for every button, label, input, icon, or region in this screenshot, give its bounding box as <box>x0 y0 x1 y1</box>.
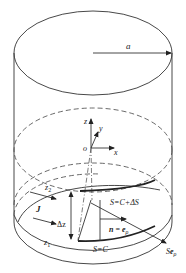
x-axis-label: x <box>113 148 118 157</box>
current-arrow-2 <box>33 218 56 224</box>
y-axis-label: y <box>98 124 103 133</box>
surface-vector-label: Seρ <box>166 247 177 257</box>
cylinder-diagram: a z y x o z2 z1 J Δz S=C+ΔS S=C n = eρ S… <box>0 0 186 273</box>
z2-label: z2 <box>44 183 51 193</box>
current-label: J <box>35 204 41 214</box>
z1-label: z1 <box>43 238 50 248</box>
z-axis-label: z <box>83 117 88 126</box>
dashed-section-lower-back <box>14 163 172 205</box>
current-arrow-1 <box>30 192 56 199</box>
surface-lower-label: S=C <box>93 245 108 254</box>
normal-label: n = eρ <box>109 225 129 235</box>
y-axis <box>91 132 98 148</box>
origin-label: o <box>83 144 87 153</box>
surface-connector <box>78 200 91 241</box>
dashed-section-upper <box>14 108 172 192</box>
radial-line-1 <box>78 148 91 240</box>
surface-vector-arrow <box>91 203 166 243</box>
surface-upper-label: S=C+ΔS <box>110 198 139 207</box>
delta-z-label: Δz <box>57 220 66 229</box>
radius-label: a <box>126 41 131 51</box>
